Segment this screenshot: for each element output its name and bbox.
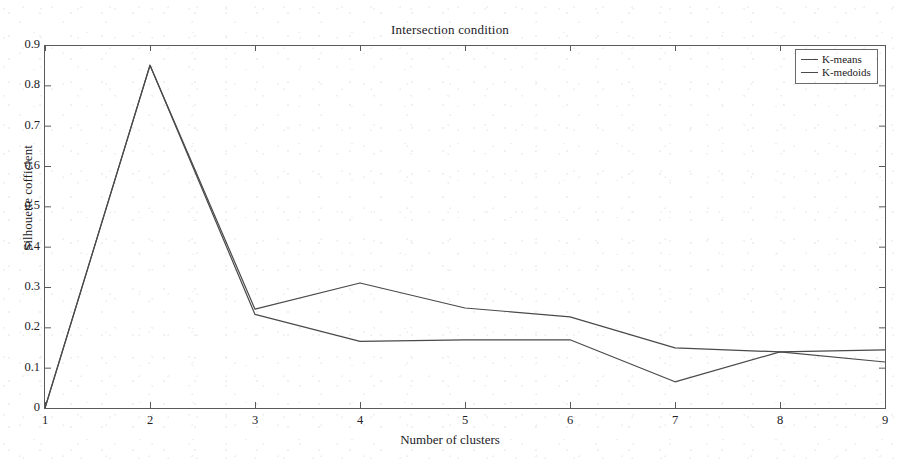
legend-line-icon xyxy=(801,72,818,73)
legend-item-k-means: K-means xyxy=(801,53,871,66)
data-series-layer xyxy=(45,65,885,408)
series-line-k-medoids xyxy=(45,65,885,408)
legend-item-k-medoids: K-medoids xyxy=(801,66,871,79)
legend: K-means K-medoids xyxy=(795,49,878,84)
axis-ticks xyxy=(45,45,886,409)
legend-label-k-medoids: K-medoids xyxy=(822,66,871,79)
legend-label-k-means: K-means xyxy=(822,53,862,66)
chart-figure: Intersection condition Silhouette coffic… xyxy=(0,0,900,462)
series-line-k-means xyxy=(45,65,885,408)
axes-frame xyxy=(45,46,886,409)
legend-line-icon xyxy=(801,59,818,60)
plot-area xyxy=(0,0,900,462)
